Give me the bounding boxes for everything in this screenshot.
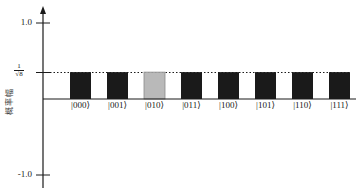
x-tick-label: |110⟩ bbox=[288, 100, 318, 110]
bar bbox=[255, 72, 276, 99]
x-tick-label: |010⟩ bbox=[140, 100, 170, 110]
x-tick-label: |111⟩ bbox=[325, 100, 355, 110]
bar bbox=[329, 72, 350, 99]
x-tick-label: |100⟩ bbox=[214, 100, 244, 110]
bar bbox=[218, 72, 239, 99]
x-tick-label: |101⟩ bbox=[251, 100, 281, 110]
y-axis-label: 概率幅 bbox=[5, 87, 15, 115]
y-axis-arrow-icon bbox=[40, 6, 46, 14]
y-tick-label-1: 1.0 bbox=[10, 17, 32, 27]
bar bbox=[70, 72, 91, 99]
x-tick-label: |011⟩ bbox=[177, 100, 207, 110]
amplitude-bar-chart bbox=[0, 0, 359, 194]
bar bbox=[181, 72, 202, 99]
y-tick-label-1-over-sqrt8: 1 √8 bbox=[14, 63, 24, 78]
fraction-denominator: √8 bbox=[14, 71, 24, 78]
bar bbox=[292, 72, 313, 99]
bar bbox=[107, 72, 128, 99]
bars bbox=[70, 72, 350, 99]
y-tick-label-minus-1: -1.0 bbox=[8, 169, 32, 179]
x-tick-label: |001⟩ bbox=[103, 100, 133, 110]
bar-highlighted bbox=[144, 72, 165, 99]
x-tick-label: |000⟩ bbox=[66, 100, 96, 110]
